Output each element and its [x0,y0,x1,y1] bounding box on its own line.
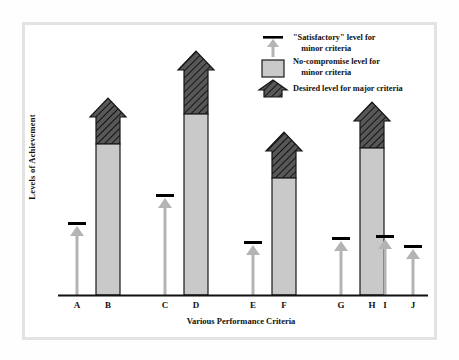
bar-H-arrow-head [354,102,390,148]
bar-F-arrow-head [266,132,302,178]
x-tick-label-D: D [186,300,206,310]
legend-label-no-compromise: No-compromise level for minor criteria [293,57,380,78]
bar-B-arrow-head [90,98,126,144]
legend-satisfactory-icon [263,36,283,57]
bar-group-B [90,98,126,295]
tick-cap-I [376,235,394,238]
chart-canvas: Levels of Achievement Various Performanc… [0,0,459,360]
legend-no-compromise-icon [262,60,284,77]
bar-group-F [266,132,302,295]
arrow-group-J [404,245,422,295]
x-tick-label-E: E [243,300,263,310]
bar-B-body [96,144,120,295]
x-tick-label-C: C [155,300,175,310]
tick-cap-E [244,241,262,244]
x-tick-label-I: I [375,300,395,310]
arrow-group-G [332,237,350,295]
tick-cap-J [404,245,422,248]
x-tick-label-B: B [98,300,118,310]
x-tick-label-G: G [331,300,351,310]
bar-H-body [360,148,384,295]
legend-desired-icon [259,80,287,97]
bar-D-arrow-head [178,51,214,114]
legend-label-desired: Desired level for major criteria [293,84,403,95]
bar-F-body [272,178,296,295]
y-axis-label: Levels of Achievement [27,97,37,217]
arrow-group-A [68,222,86,295]
arrow-group-E [244,241,262,295]
arrow-group-C [156,194,174,295]
bar-D-body [184,114,208,295]
tick-cap-C [156,194,174,197]
tick-cap-A [68,222,86,225]
x-tick-label-A: A [67,300,87,310]
tick-cap-G [332,237,350,240]
legend-label-satisfactory: "Satisfactory" level for minor criteria [293,33,375,54]
bar-group-D [178,51,214,295]
x-tick-label-J: J [403,300,423,310]
x-tick-label-F: F [274,300,294,310]
x-axis-label: Various Performance Criteria [62,316,420,326]
